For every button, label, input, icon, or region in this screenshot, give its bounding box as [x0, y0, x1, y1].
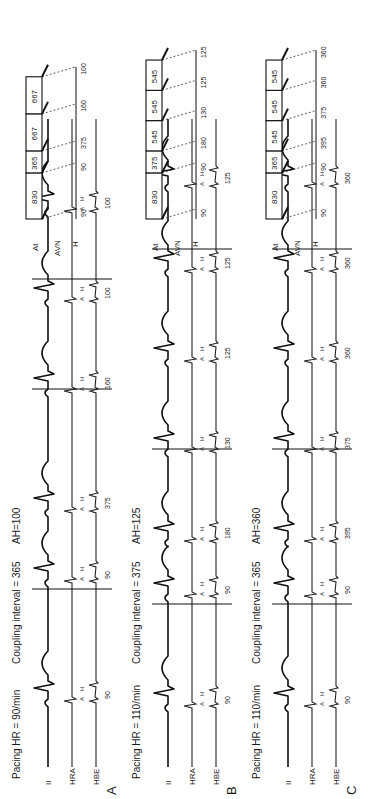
ladder-atrial-interval: 830 [270, 190, 279, 204]
hra-trace [304, 119, 316, 767]
his-wave-label: H [319, 257, 325, 261]
ah-interval-value: 100 [104, 197, 111, 209]
lead-label-ii: II [284, 781, 293, 785]
ah-interval-value: 375 [104, 497, 111, 509]
his-wave-label: H [319, 692, 325, 696]
his-wave-label: H [199, 582, 205, 586]
atrial-wave-label: A [319, 357, 325, 361]
atrial-wave-label: A [319, 592, 325, 596]
ah-interval-label: AH=100 [11, 507, 22, 544]
ah-interval-value: 125 [224, 257, 231, 269]
atrial-wave-label: A [319, 702, 325, 706]
lead-label-hbe: HBE [212, 769, 221, 785]
ladder-atrial-interval: 830 [30, 190, 39, 204]
ladder-atrial-interval: 545 [270, 100, 279, 114]
atrial-wave-label: A [199, 182, 205, 186]
ladder-ah-value: 125 [200, 77, 207, 89]
ladder-row-label-at: At [151, 243, 160, 251]
lead-label-hbe: HBE [332, 769, 341, 785]
ah-interval-value: 125 [224, 172, 231, 184]
ladder-ah-value: 90 [200, 209, 207, 217]
ah-interval-value: 375 [344, 437, 351, 449]
his-wave-label: H [319, 582, 325, 586]
his-wave-label: H [319, 347, 325, 351]
ah-interval-value: 360 [344, 172, 351, 184]
ladder-row-label-at: At [271, 243, 280, 251]
ladder-atrial-interval: 545 [270, 69, 279, 83]
ladder-ah-value: 90 [320, 209, 327, 217]
ah-interval-value: 125 [224, 347, 231, 359]
ah-interval-value: 360 [344, 347, 351, 359]
ladder-atrial-interval: 365 [30, 156, 39, 170]
atrial-wave-label: A [199, 267, 205, 271]
his-wave-label: H [199, 172, 205, 176]
pacing-rate-label: Pacing HR = 110/min [131, 685, 142, 779]
atrial-wave-label: A [319, 182, 325, 186]
ah-interval-value: 180 [224, 527, 231, 539]
hbe-trace [209, 119, 218, 767]
his-wave-label: H [199, 692, 205, 696]
ladder-atrial-interval: 667 [30, 126, 39, 140]
atrial-wave-label: A [319, 537, 325, 541]
ah-interval-value: 90 [224, 696, 231, 704]
ladder-ah-value: 360 [320, 46, 327, 58]
hbe-trace [89, 119, 98, 767]
hbe-trace [329, 119, 338, 767]
lead-label-hra: HRA [188, 767, 197, 785]
ladder-row-label-at: At [31, 243, 40, 251]
panel-letter: A [104, 786, 119, 795]
panel-c: CPacing HR = 110/minCoupling interval = … [251, 46, 359, 795]
ladder-ah-value: 375 [80, 137, 87, 149]
ladder-row-label-h: H [311, 241, 320, 247]
atrial-wave-label: A [79, 297, 85, 301]
his-wave-label: H [79, 197, 85, 201]
lead-label-hra: HRA [308, 767, 317, 785]
panel-letter: C [344, 786, 359, 795]
ladder-ah-value: 180 [200, 137, 207, 149]
atrial-wave-label: A [79, 507, 85, 511]
his-wave-label: H [199, 257, 205, 261]
hra-trace [64, 119, 76, 767]
ladder-row-label-avn: AVN [173, 240, 182, 256]
lead-label-hra: HRA [68, 767, 77, 785]
ah-interval-value: 90 [344, 696, 351, 704]
atrial-wave-label: A [199, 592, 205, 596]
atrial-wave-label: A [79, 697, 85, 701]
ladder-ah-value: 375 [320, 107, 327, 119]
his-wave-label: H [79, 377, 85, 381]
his-wave-label: H [79, 287, 85, 291]
ah-interval-value: 160 [104, 377, 111, 389]
his-wave-label: H [79, 687, 85, 691]
panel-a: APacing HR = 90/minCoupling interval = 3… [11, 63, 119, 795]
his-wave-label: H [319, 527, 325, 531]
ah-interval-value: 100 [104, 287, 111, 299]
ladder-ah-value: 100 [80, 63, 87, 75]
ah-interval-value: 360 [344, 257, 351, 269]
ah-interval-value: 395 [344, 527, 351, 539]
lead-label-ii: II [164, 781, 173, 785]
ladder-ah-value: 90 [80, 163, 87, 171]
panel-letter: B [224, 786, 239, 795]
ah-interval-value: 90 [224, 586, 231, 594]
ladder-ah-value: 125 [200, 46, 207, 58]
ah-interval-value: 90 [104, 691, 111, 699]
coupling-interval-label: Coupling interval = 375 [131, 561, 142, 664]
hra-trace [184, 119, 196, 767]
his-wave-label: H [79, 567, 85, 571]
ladder-ah-value: 90 [320, 163, 327, 171]
ladder-atrial-interval: 545 [270, 130, 279, 144]
his-wave-label: H [79, 497, 85, 501]
atrial-wave-label: A [199, 702, 205, 706]
ladder-row-label-avn: AVN [53, 240, 62, 256]
coupling-interval-label: Coupling interval = 365 [11, 561, 22, 664]
atrial-wave-label: A [199, 537, 205, 541]
ladder-row-label-h: H [191, 241, 200, 247]
ladder-ah-value: 395 [320, 137, 327, 149]
lead-label-ii: II [44, 781, 53, 785]
ladder-row-label-h: H [71, 241, 80, 247]
ladder-ah-value: 90 [80, 209, 87, 217]
ladder-ah-value: 160 [80, 100, 87, 112]
his-wave-label: H [319, 172, 325, 176]
figure-canvas: APacing HR = 90/minCoupling interval = 3… [0, 0, 373, 799]
pacing-rate-label: Pacing HR = 110/min [251, 685, 262, 779]
